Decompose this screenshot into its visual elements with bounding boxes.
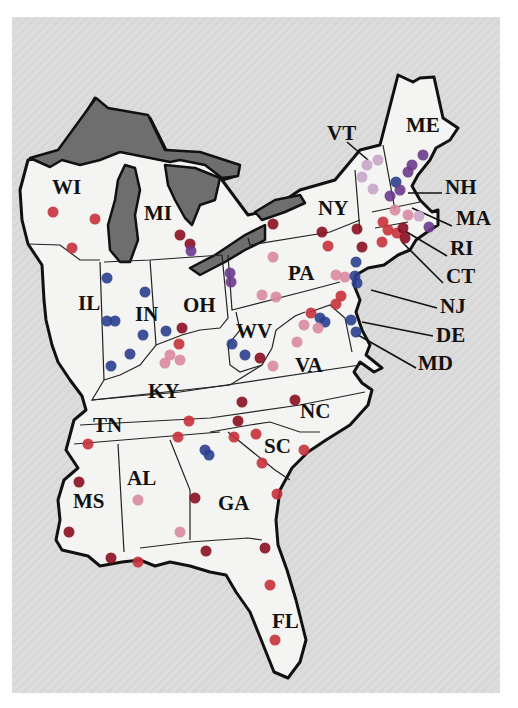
site-marker	[106, 553, 117, 564]
site-marker	[173, 432, 184, 443]
site-marker	[340, 272, 351, 283]
state-label-oh: OH	[183, 293, 216, 317]
state-label-me: ME	[406, 113, 440, 137]
site-marker	[74, 477, 85, 488]
site-marker	[177, 323, 188, 334]
site-marker	[373, 155, 384, 166]
site-marker	[229, 432, 240, 443]
site-marker	[190, 493, 201, 504]
state-label-nj: NJ	[440, 294, 466, 318]
site-marker	[299, 320, 310, 331]
site-marker	[398, 223, 409, 234]
site-marker	[418, 150, 429, 161]
state-label-fl: FL	[272, 609, 299, 633]
state-label-nh: NH	[445, 175, 477, 199]
site-marker	[323, 241, 334, 252]
eastern-us-map: WIMIVTMENYNHMAPARICTILINOHNJWVDEVAMDKYTN…	[0, 0, 518, 708]
site-marker	[140, 287, 151, 298]
site-marker	[226, 277, 237, 288]
state-label-pa: PA	[288, 261, 315, 285]
site-marker	[368, 184, 379, 195]
site-marker	[64, 527, 75, 538]
site-marker	[255, 353, 266, 364]
site-marker	[292, 337, 303, 348]
site-marker	[272, 489, 283, 500]
state-label-il: IL	[78, 291, 100, 315]
site-marker	[403, 210, 414, 221]
site-marker	[268, 361, 279, 372]
site-marker	[377, 237, 388, 248]
site-marker	[174, 339, 185, 350]
site-marker	[110, 316, 121, 327]
site-marker	[357, 172, 368, 183]
state-label-va: VA	[295, 353, 323, 377]
site-marker	[67, 243, 78, 254]
site-marker	[260, 543, 271, 554]
site-marker	[186, 246, 197, 257]
state-label-in: IN	[135, 302, 158, 326]
site-marker	[395, 185, 406, 196]
site-marker	[257, 290, 268, 301]
site-marker	[385, 191, 396, 202]
site-marker	[175, 527, 186, 538]
state-label-ms: MS	[73, 489, 105, 513]
site-marker	[125, 349, 136, 360]
site-marker	[138, 330, 149, 341]
state-label-sc: SC	[264, 434, 291, 458]
site-marker	[299, 445, 310, 456]
site-marker	[403, 167, 414, 178]
state-label-ga: GA	[218, 491, 250, 515]
site-marker	[204, 450, 215, 461]
state-label-ny: NY	[318, 196, 348, 220]
state-label-vt: VT	[327, 121, 356, 145]
site-marker	[268, 219, 279, 230]
site-marker	[237, 397, 248, 408]
site-marker	[414, 211, 425, 222]
site-marker	[201, 546, 212, 557]
site-marker	[362, 160, 373, 171]
site-marker	[424, 222, 435, 233]
site-marker	[352, 278, 363, 289]
site-marker	[290, 395, 301, 406]
site-marker	[346, 315, 357, 326]
site-marker	[102, 273, 113, 284]
site-marker	[161, 326, 172, 337]
site-marker	[251, 429, 262, 440]
site-marker	[313, 323, 324, 334]
site-marker	[270, 635, 281, 646]
site-marker	[265, 580, 276, 591]
site-marker	[317, 227, 328, 238]
site-marker	[175, 355, 186, 366]
site-marker	[331, 299, 342, 310]
state-label-wv: WV	[236, 319, 272, 343]
site-marker	[357, 242, 368, 253]
state-label-tn: TN	[93, 413, 122, 437]
site-marker	[133, 495, 144, 506]
state-label-ct: CT	[446, 264, 475, 288]
state-label-al: AL	[127, 466, 156, 490]
state-label-nc: NC	[300, 399, 330, 423]
site-marker	[390, 205, 401, 216]
site-marker	[351, 327, 362, 338]
site-marker	[271, 292, 282, 303]
state-label-ma: MA	[456, 206, 492, 230]
site-marker	[257, 458, 268, 469]
site-marker	[48, 207, 59, 218]
site-marker	[352, 224, 363, 235]
state-label-wi: WI	[52, 175, 81, 199]
state-label-de: DE	[436, 323, 465, 347]
site-marker	[400, 233, 411, 244]
state-label-md: MD	[418, 351, 453, 375]
site-marker	[90, 214, 101, 225]
state-label-ri: RI	[450, 236, 473, 260]
site-marker	[133, 557, 144, 568]
site-marker	[83, 439, 94, 450]
site-marker	[160, 358, 171, 369]
state-label-ky: KY	[148, 379, 180, 403]
state-label-mi: MI	[144, 201, 172, 225]
site-marker	[184, 416, 195, 427]
site-marker	[268, 252, 279, 263]
site-marker	[106, 361, 117, 372]
site-marker	[233, 416, 244, 427]
site-marker	[240, 350, 251, 361]
